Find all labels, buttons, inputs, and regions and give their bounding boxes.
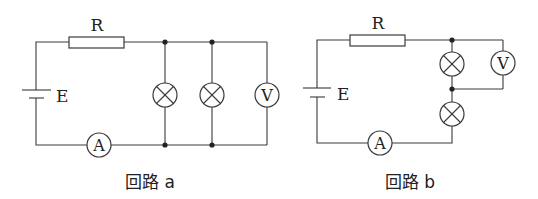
voltmeter-b: V xyxy=(491,51,515,75)
circuit-a: R E A V xyxy=(22,15,279,192)
voltmeter-a: V xyxy=(255,83,279,107)
ammeter-a-label: A xyxy=(92,136,105,155)
resistor-b xyxy=(350,35,405,46)
ammeter-b-label: A xyxy=(373,134,386,153)
caption-circuit-a: 回路 a xyxy=(125,172,175,192)
circuit-a-wires xyxy=(36,42,267,145)
battery-b-icon xyxy=(303,88,331,97)
battery-a-label: E xyxy=(56,86,68,106)
voltmeter-b-label: V xyxy=(496,54,509,73)
lamp-a-2-icon xyxy=(200,83,224,107)
caption-circuit-b: 回路 b xyxy=(385,172,435,192)
lamp-b-1-icon xyxy=(440,52,464,76)
ammeter-b: A xyxy=(368,131,392,155)
circuit-diagrams: R E A V xyxy=(0,0,538,199)
resistor-a xyxy=(69,37,124,48)
battery-b-label: E xyxy=(337,84,349,104)
battery-a-icon xyxy=(22,90,51,98)
ammeter-a: A xyxy=(87,133,111,157)
resistor-a-label: R xyxy=(91,15,105,35)
voltmeter-a-label: V xyxy=(260,86,273,105)
circuit-b: R E A V 回路 b xyxy=(303,13,515,192)
lamp-b-2-icon xyxy=(440,102,464,126)
lamp-a-1-icon xyxy=(153,83,177,107)
resistor-b-label: R xyxy=(372,13,386,33)
